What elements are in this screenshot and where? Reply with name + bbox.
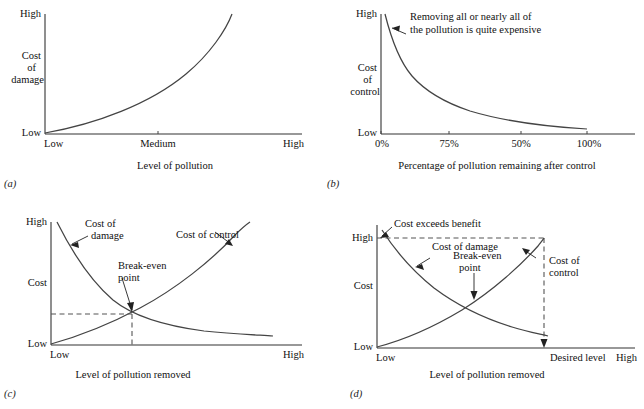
panel-b: High Low Cost of control 0% 75% 50% 100%…	[322, 0, 644, 200]
label-cost-of-control: Cost of control	[176, 229, 239, 241]
y-tick-high: High	[20, 8, 41, 20]
x-axis-label: Level of pollution removed	[75, 369, 190, 381]
curve-cost-of-damage	[45, 14, 232, 133]
x-axis-label: Percentage of pollution remaining after …	[398, 160, 595, 172]
x-axis-label: Level of pollution	[137, 160, 213, 172]
y-tick-low: Low	[22, 127, 41, 139]
label-break-even-line1: Break-even	[118, 260, 166, 272]
label-cost-of-damage-line1: Cost of	[85, 218, 116, 230]
y-tick-low: Low	[28, 338, 47, 350]
y-axis-label: Cost	[28, 277, 47, 289]
label-break-even-line2: point	[118, 272, 140, 284]
label-cost-of-control-line1: Cost of	[549, 255, 580, 267]
label-cost-of-damage-line2: damage	[91, 230, 124, 242]
x-axis-label: Level of pollution removed	[429, 369, 544, 381]
x-tick-50pct-label: 50%	[511, 138, 530, 150]
x-tick-0pct-label: 0%	[375, 138, 389, 150]
label-break-even-line1: Break-even	[453, 250, 501, 262]
panel-c: High Low Cost Low High Cost of damage Co…	[0, 200, 322, 409]
damage-leader-line	[417, 258, 430, 266]
x-tick-low: Low	[50, 349, 69, 361]
panel-caption-b: (b)	[327, 178, 339, 189]
y-axis-label-line1: Cost	[358, 62, 377, 74]
y-tick-high: High	[356, 8, 377, 20]
x-tick-high: High	[283, 138, 304, 150]
annotation-line2: the pollution is quite expensive	[410, 24, 541, 36]
figure-pollution-cost-curves: High Low Cost of damage Low Medium High …	[0, 0, 644, 409]
annotation-arrowhead	[392, 26, 400, 32]
y-axis-label: Cost	[354, 280, 373, 292]
x-tick-100pct-label: 100%	[577, 138, 602, 150]
x-tick-75pct-label: 75%	[439, 138, 458, 150]
panel-caption-d: (d)	[350, 388, 362, 399]
panel-a: High Low Cost of damage Low Medium High …	[0, 0, 322, 200]
break-even-arrowhead	[471, 291, 478, 300]
y-axis-label-line2: of	[363, 74, 372, 86]
desired-level-arrowhead	[541, 339, 548, 348]
y-tick-high: High	[26, 216, 47, 228]
control-arrowhead	[522, 248, 530, 255]
panel-caption-c: (c)	[4, 388, 16, 399]
x-tick-low: Low	[376, 352, 395, 364]
x-tick-low: Low	[44, 138, 63, 150]
label-cost-exceeds-benefit: Cost exceeds benefit	[394, 218, 481, 230]
label-desired-level: Desired level	[550, 352, 606, 364]
annotation-line1: Removing all or nearly all of	[410, 11, 532, 23]
y-axis-label-line3: control	[350, 86, 380, 98]
x-tick-medium-label: Medium	[140, 138, 176, 150]
y-axis-label-line1: Cost	[22, 50, 41, 62]
label-break-even-line2: point	[459, 262, 481, 274]
panel-d: High Low Cost Low High Cost exceeds bene…	[322, 200, 644, 409]
y-tick-high: High	[352, 232, 373, 244]
panel-caption-a: (a)	[4, 178, 16, 189]
y-axis-label-line2: of	[27, 62, 36, 74]
damage-leader-line	[72, 236, 88, 244]
y-axis-label-line3: damage	[11, 74, 44, 86]
label-cost-of-control-line2: control	[549, 267, 579, 279]
y-tick-low: Low	[354, 341, 373, 353]
x-tick-high: High	[616, 352, 637, 364]
x-tick-high: High	[283, 349, 304, 361]
curve-cost-of-damage	[57, 222, 273, 336]
